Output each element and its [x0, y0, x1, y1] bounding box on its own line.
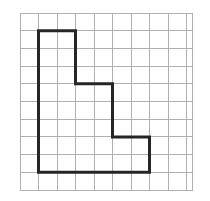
grid-and-shape-svg	[0, 0, 210, 201]
grid-lines-group	[20, 13, 193, 190]
figure-canvas	[0, 0, 210, 201]
